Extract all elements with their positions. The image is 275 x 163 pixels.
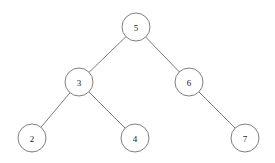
node-label: 2 [30,134,35,144]
node-label: 3 [77,78,82,88]
tree-node[interactable]: 3 [65,68,93,96]
node-label: 5 [134,23,139,33]
tree-node[interactable]: 6 [175,68,203,96]
tree-edge [41,93,70,128]
tree-node[interactable]: 4 [121,124,149,152]
tree-canvas: 536247 [0,0,275,163]
tree-node[interactable]: 2 [18,124,46,152]
node-label: 7 [243,134,248,144]
tree-edge [89,37,126,73]
tree-node[interactable]: 7 [231,124,259,152]
binary-tree-diagram: 536247 [0,0,275,163]
tree-node[interactable]: 5 [122,13,150,41]
node-label: 4 [133,134,138,144]
tree-edge [89,92,125,128]
tree-edge [146,37,180,72]
node-layer: 536247 [18,13,259,152]
tree-edge [199,92,235,128]
node-label: 6 [187,78,192,88]
